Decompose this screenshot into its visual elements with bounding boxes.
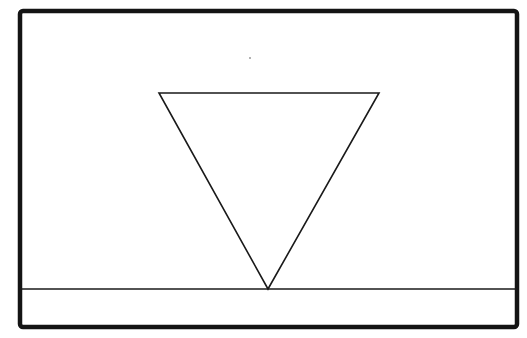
background — [0, 0, 527, 338]
speck-dot — [249, 57, 251, 59]
diagram-canvas — [0, 0, 527, 338]
